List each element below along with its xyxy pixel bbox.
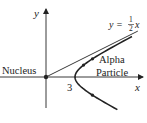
particle-direction-dot xyxy=(82,63,85,66)
particle-direction-dot xyxy=(91,94,94,97)
x-axis-label: x xyxy=(134,81,140,93)
alpha-particle-diagram: y x Nucleus 3 Alpha Particle y = 1 2 x xyxy=(0,0,147,123)
nucleus-dot xyxy=(44,75,48,79)
equation-prefix: y = xyxy=(108,19,125,30)
equation-suffix: x xyxy=(134,19,140,30)
asymptote-equation: y = 1 2 x xyxy=(108,15,140,33)
fraction-numerator: 1 xyxy=(129,15,133,24)
particle-direction-dot xyxy=(91,57,94,60)
particle-label: Particle xyxy=(96,67,128,78)
y-axis-label: y xyxy=(33,7,39,19)
alpha-label: Alpha xyxy=(99,54,125,65)
vertex-label: 3 xyxy=(67,82,72,93)
nucleus-label: Nucleus xyxy=(2,65,36,76)
fraction-denominator: 2 xyxy=(129,24,133,33)
